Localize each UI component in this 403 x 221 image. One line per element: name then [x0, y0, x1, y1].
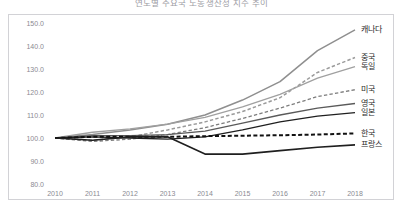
legend-item-한국: 한국 [361, 129, 375, 138]
legend-item-프랑스: 프랑스 [361, 140, 382, 149]
series-line-프랑스 [55, 137, 355, 154]
legend-item-영국: 영국 [361, 99, 375, 108]
legend-item-독일: 독일 [361, 62, 375, 71]
legend-item-미국: 미국 [361, 85, 375, 94]
legend-item-캐나다: 캐나다 [361, 25, 382, 34]
chart-plot-lines [0, 0, 403, 221]
series-line-영국 [55, 104, 355, 139]
chart-container: 연도별 주요국 노동생산성 지수 추이 150.0140.0130.0120.0… [0, 0, 403, 221]
legend-item-일본: 일본 [361, 108, 375, 117]
legend-item-중국: 중국 [361, 53, 375, 62]
